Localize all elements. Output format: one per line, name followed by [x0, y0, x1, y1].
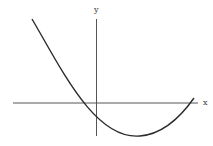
chart-plot-area: [0, 0, 213, 146]
y-axis-label: y: [94, 6, 99, 14]
parabola-curve: [32, 19, 194, 136]
x-axis-label: x: [203, 99, 208, 107]
